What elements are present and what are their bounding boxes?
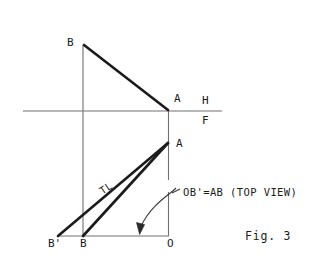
figure-caption: Fig. 3 (245, 231, 291, 243)
point-label-a-top: A (176, 138, 183, 149)
top-view-line-ab (83, 143, 168, 236)
point-label-o: O (167, 238, 174, 249)
reference-label-h: H (202, 95, 209, 106)
point-label-b-front: B (67, 37, 74, 48)
top-view-note: OB'=AB (TOP VIEW) (183, 187, 297, 198)
point-label-b-top: B (80, 238, 87, 249)
figure-canvas: B A A B' B O H F TL OB'=AB (TOP VIEW) Fi… (0, 0, 315, 269)
leader-arrow-head (137, 223, 145, 235)
leader-arrow-curve (141, 188, 176, 226)
front-view-line-ab (84, 45, 168, 110)
point-label-a-front: A (174, 93, 181, 104)
point-label-b-prime: B' (48, 238, 61, 249)
reference-label-f: F (202, 115, 209, 126)
